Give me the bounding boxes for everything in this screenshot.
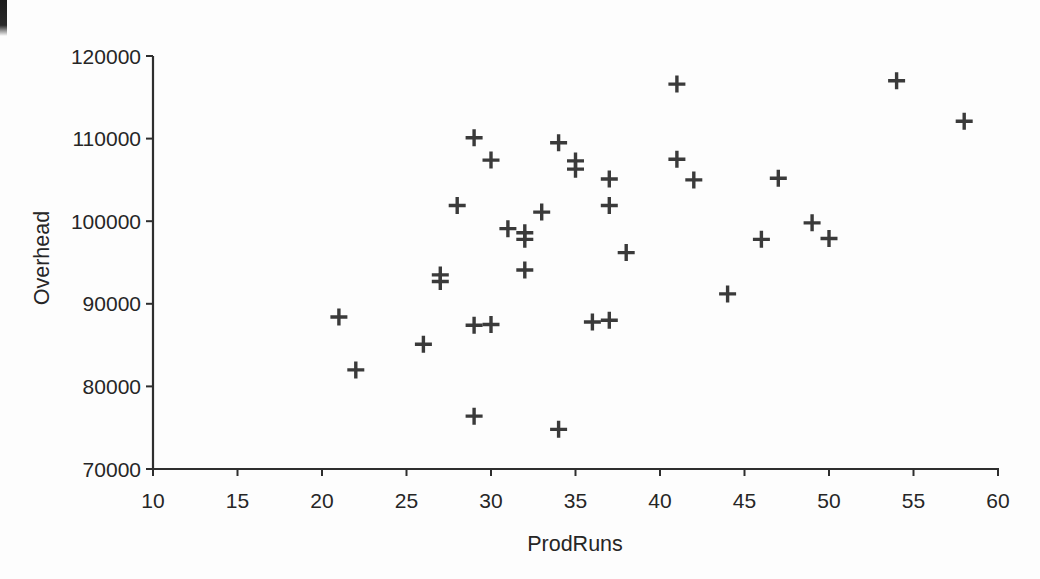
data-point [770,170,787,187]
data-point [584,313,601,330]
data-point [550,421,567,438]
data-point [821,230,838,247]
x-tick-label: 40 [648,489,671,512]
x-tick-label: 30 [479,489,502,512]
data-point [956,113,973,130]
data-point [601,171,618,188]
data-point [499,220,516,237]
y-tick-label: 110000 [72,127,141,150]
data-point [601,312,618,329]
data-point [449,197,466,214]
y-axis-ticks: 700008000090000100000110000120000 [71,45,153,481]
scatter-plot-figure: 1015202530354045505560 70000800009000010… [0,0,1040,579]
data-point [668,151,685,168]
x-tick-label: 25 [395,489,418,512]
data-point [668,76,685,93]
data-point [415,336,432,353]
x-tick-label: 50 [817,489,840,512]
data-point [483,152,500,169]
data-point [516,261,533,278]
data-point [567,161,584,178]
x-axis-ticks: 1015202530354045505560 [141,469,1009,512]
data-points [330,72,972,438]
y-axis-title: Overhead [30,211,54,305]
x-tick-label: 15 [226,489,249,512]
data-point [466,129,483,146]
y-tick-label: 70000 [83,458,141,481]
data-point [347,361,364,378]
scan-artifact-mark [0,0,7,36]
data-point [685,171,702,188]
data-point [601,197,618,214]
data-point [533,204,550,221]
data-point [466,317,483,334]
x-tick-label: 45 [733,489,756,512]
scatter-chart: 1015202530354045505560 70000800009000010… [0,0,1040,579]
x-tick-label: 35 [564,489,587,512]
x-tick-label: 20 [310,489,333,512]
data-point [753,231,770,248]
y-tick-label: 90000 [83,292,141,315]
x-tick-label: 10 [141,489,164,512]
x-tick-label: 60 [986,489,1009,512]
x-axis-title: ProdRuns [527,532,623,556]
y-tick-label: 100000 [71,210,141,233]
axes [153,56,999,469]
data-point [330,309,347,326]
x-tick-label: 55 [902,489,925,512]
data-point [804,214,821,231]
data-point [550,134,567,151]
data-point [466,408,483,425]
y-tick-label: 80000 [83,375,141,398]
data-point [719,285,736,302]
data-point [888,72,905,89]
data-point [618,244,635,261]
y-tick-label: 120000 [71,45,141,68]
data-point [483,316,500,333]
